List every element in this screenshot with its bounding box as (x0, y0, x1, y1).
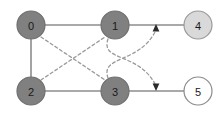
node-circle-3[interactable] (101, 77, 129, 105)
graph-node-4[interactable]: 4 (184, 11, 212, 39)
graph-diagram-canvas: 014235 (0, 0, 223, 117)
graph-node-2[interactable]: 2 (17, 77, 45, 105)
node-circle-4[interactable] (184, 11, 212, 39)
node-circle-2[interactable] (17, 77, 45, 105)
graph-node-5[interactable]: 5 (184, 77, 212, 105)
graph-svg: 014235 (0, 0, 223, 117)
arrowhead-down (153, 84, 160, 92)
dashed-edges-layer (41, 30, 156, 86)
node-circle-0[interactable] (17, 11, 45, 39)
node-circle-5[interactable] (184, 77, 212, 105)
node-circle-1[interactable] (101, 11, 129, 39)
graph-node-0[interactable]: 0 (17, 11, 45, 39)
graph-node-3[interactable]: 3 (101, 77, 129, 105)
graph-node-1[interactable]: 1 (101, 11, 129, 39)
